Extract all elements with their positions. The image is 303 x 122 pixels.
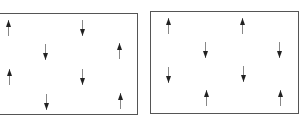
arrow-down-icon	[43, 93, 50, 111]
arrow-down-icon	[165, 66, 172, 84]
arrow-up-icon	[165, 17, 172, 35]
arrow-down-icon	[79, 68, 86, 86]
arrow-down-icon	[240, 65, 247, 83]
arrow-down-icon	[202, 41, 209, 59]
arrow-up-icon	[117, 92, 124, 110]
arrow-up-icon	[6, 68, 13, 86]
arrow-down-icon	[79, 19, 86, 37]
arrow-down-icon	[42, 43, 49, 61]
arrow-up-icon	[116, 42, 123, 60]
arrow-up-icon	[5, 19, 12, 37]
arrow-down-icon	[276, 41, 283, 59]
arrow-up-icon	[239, 17, 246, 35]
arrow-up-icon	[277, 89, 284, 107]
arrow-up-icon	[203, 89, 210, 107]
